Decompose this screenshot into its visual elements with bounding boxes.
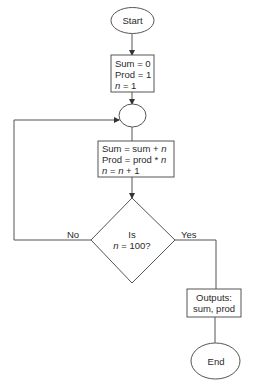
output-line-2: sum, prod	[187, 303, 241, 314]
start-label-text: Start	[122, 15, 142, 26]
init-line-n: n = 1	[115, 80, 151, 91]
yes-edge-label: Yes	[181, 229, 197, 240]
loop-body-text: Sum = sum + n Prod = prod * n n = n + 1	[102, 143, 166, 176]
decision-text: Is n = 100?	[102, 229, 162, 251]
output-box-text: Outputs: sum, prod	[187, 292, 241, 314]
decision-line-condition: n = 100?	[102, 240, 162, 251]
body-line-prod: Prod = prod * n	[102, 154, 166, 165]
output-line-1: Outputs:	[187, 292, 241, 303]
init-line-sum: Sum = 0	[115, 58, 151, 69]
init-line-prod: Prod = 1	[115, 69, 151, 80]
decision-line-is: Is	[102, 229, 162, 240]
edge-no-loop	[14, 120, 119, 240]
end-label-text: End	[208, 356, 225, 367]
end-node-label: End	[191, 356, 241, 367]
edge-yes-output	[175, 240, 216, 289]
start-node-label: Start	[111, 15, 154, 26]
connector-node-shape	[119, 104, 146, 127]
init-n-value: = 1	[120, 80, 136, 91]
body-line-sum: Sum = sum + n	[102, 143, 166, 154]
var-n: n	[161, 154, 166, 165]
var-n: n	[161, 143, 166, 154]
body-line-increment: n = n + 1	[102, 165, 166, 176]
init-box-text: Sum = 0 Prod = 1 n = 1	[115, 58, 151, 91]
no-edge-label: No	[67, 229, 79, 240]
